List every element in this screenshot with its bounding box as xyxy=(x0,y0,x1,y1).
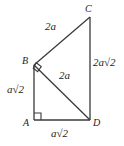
sqrt-symbol-ab: √2 xyxy=(13,84,25,95)
length-label-cd: 2a√2 xyxy=(93,57,116,68)
vertex-label-c: C xyxy=(85,4,92,14)
geometry-figure: C B A D 2a 2a√2 2a a√2 a√2 xyxy=(0,0,124,146)
sqrt-symbol-ad: √2 xyxy=(57,128,69,139)
length-label-ad: a√2 xyxy=(51,128,68,139)
length-ad-radicand: 2 xyxy=(63,128,69,139)
length-label-bd: 2a xyxy=(59,70,70,81)
length-bd-variable: a xyxy=(65,69,71,81)
vertex-label-b: B xyxy=(22,56,28,66)
length-cd-radicand: 2 xyxy=(110,57,116,68)
segment-bc xyxy=(34,17,90,65)
sqrt-symbol-cd: √2 xyxy=(104,57,116,68)
length-bc-variable: a xyxy=(51,20,57,32)
right-angle-marker-a xyxy=(34,113,41,120)
vertex-label-a: A xyxy=(23,118,29,128)
length-label-ab: a√2 xyxy=(7,84,24,95)
vertex-label-d: D xyxy=(93,118,100,128)
length-label-bc: 2a xyxy=(45,21,56,32)
length-ab-radicand: 2 xyxy=(19,84,25,95)
